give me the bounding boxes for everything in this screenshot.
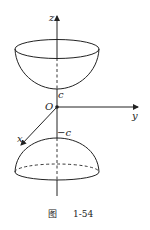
origin-point (55, 105, 59, 109)
lower-vertex-label: −c (57, 127, 71, 138)
y-axis-label: y (131, 110, 138, 121)
caption-number: 1-54 (73, 209, 93, 219)
upper-vertex-label: c (58, 89, 64, 100)
two-sheet-hyperboloid-diagram: z y x O c −c 图 1-54 (0, 0, 150, 230)
origin-label: O (45, 101, 53, 112)
z-axis-label: z (48, 12, 55, 23)
x-axis (21, 107, 57, 145)
caption-prefix: 图 (48, 209, 57, 219)
x-axis-label: x (17, 133, 23, 144)
